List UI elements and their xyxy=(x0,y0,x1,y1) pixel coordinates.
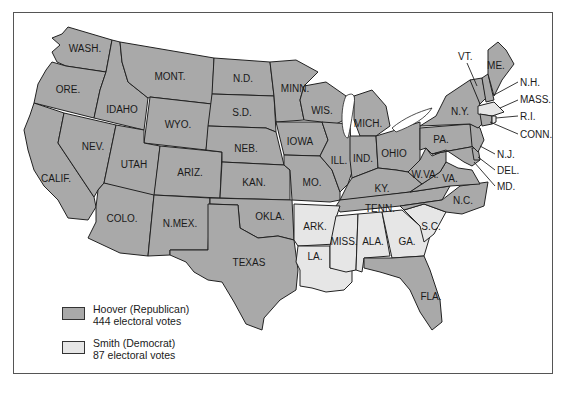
label-ga: GA. xyxy=(398,236,415,247)
label-nm: N.MEX. xyxy=(163,218,197,229)
label-az: COLO. xyxy=(106,213,137,224)
label-ma: MASS. xyxy=(520,94,551,105)
legend: Hoover (Republican) 444 electoral votes … xyxy=(62,303,189,371)
label-ar: ARK. xyxy=(303,221,326,232)
label-wy: WYO. xyxy=(165,119,192,130)
label-or: ORE. xyxy=(56,84,80,95)
label-tx: TEXAS xyxy=(233,257,266,268)
legend-smith-votes: 87 electoral votes xyxy=(93,349,175,361)
label-nh: N.H. xyxy=(520,77,540,88)
legend-hoover-votes: 444 electoral votes xyxy=(93,315,189,327)
label-sd: S.D. xyxy=(232,107,251,118)
label-nj: N.J. xyxy=(497,149,515,160)
label-ca: CALIF. xyxy=(41,173,71,184)
label-la: LA. xyxy=(307,251,322,262)
swatch-republican xyxy=(62,307,85,320)
label-mt: MONT. xyxy=(154,71,185,82)
label-ny: N.Y. xyxy=(451,106,469,117)
label-il: ILL. xyxy=(331,155,348,166)
legend-item-hoover: Hoover (Republican) 444 electoral votes xyxy=(62,303,189,327)
label-fl: FLA. xyxy=(420,291,441,302)
label-ri: R.I. xyxy=(520,111,536,122)
leader-ri xyxy=(496,116,518,118)
label-ut: UTAH xyxy=(121,159,147,170)
leader-de xyxy=(478,157,495,170)
label-nv: NEV. xyxy=(82,141,104,152)
label-mo: MO. xyxy=(303,177,322,188)
label-nc: N.C. xyxy=(453,195,473,206)
legend-item-smith: Smith (Democrat) 87 electoral votes xyxy=(62,337,189,361)
label-wv: W.VA. xyxy=(411,169,438,180)
state-mi[interactable] xyxy=(354,90,390,136)
label-ct: CONN. xyxy=(520,129,552,140)
label-sc: S.C. xyxy=(421,221,440,232)
label-md: MD. xyxy=(497,181,515,192)
legend-hoover-name: Hoover (Republican) xyxy=(93,303,189,315)
leader-nj xyxy=(480,146,495,154)
label-ia: IOWA xyxy=(287,136,314,147)
label-in: IND. xyxy=(353,153,373,164)
label-wa: WASH. xyxy=(69,43,101,54)
state-ct[interactable] xyxy=(480,114,492,126)
swatch-democrat xyxy=(62,341,85,354)
label-wi: WIS. xyxy=(311,105,333,116)
leader-ma xyxy=(500,100,518,108)
label-me: ME. xyxy=(487,60,505,71)
label-nd: N.D. xyxy=(233,73,253,84)
leader-ct xyxy=(490,122,518,134)
label-pa: PA. xyxy=(433,134,448,145)
label-co: ARIZ. xyxy=(177,167,203,178)
label-ok: OKLA. xyxy=(255,211,284,222)
label-al: ALA. xyxy=(362,236,384,247)
lake-michigan xyxy=(342,94,355,138)
label-vt: VT. xyxy=(458,51,472,62)
label-oh: OHIO xyxy=(381,148,407,159)
label-ks: KAN. xyxy=(242,177,265,188)
label-ky: KY. xyxy=(375,183,390,194)
label-va: VA. xyxy=(442,173,457,184)
legend-smith-name: Smith (Democrat) xyxy=(93,337,175,349)
label-mi: MICH. xyxy=(354,118,382,129)
label-ne: NEB. xyxy=(234,143,257,154)
label-de: DEL. xyxy=(497,165,519,176)
label-mn: MINN. xyxy=(281,83,309,94)
label-ms: MISS. xyxy=(330,236,357,247)
label-id: IDAHO xyxy=(106,104,138,115)
label-tn: TENN. xyxy=(365,203,395,214)
